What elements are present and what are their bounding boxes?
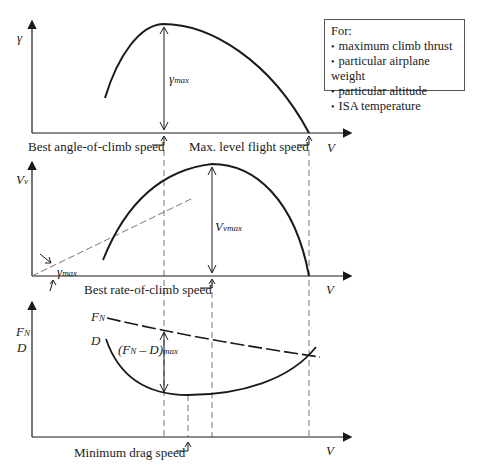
max-level-flight-speed-label: Max. level flight speed xyxy=(189,140,309,153)
conditions-legend: For: maximum climb thrust particular air… xyxy=(324,19,465,91)
gamma-axis-label: γ xyxy=(17,31,22,44)
middle-v-axis-label: V xyxy=(326,283,334,296)
gamma-curve xyxy=(105,24,309,133)
legend-item: particular airplane weight xyxy=(331,54,458,84)
top-panel xyxy=(32,22,350,145)
thrust-curve-label: FN xyxy=(91,310,105,323)
bottom-panel xyxy=(32,303,350,451)
gamma-max-label: γmax xyxy=(169,72,189,85)
best-angle-of-climb-speed-label: Best angle-of-climb speed xyxy=(28,140,164,153)
vv-axis-label: Vv xyxy=(16,173,28,186)
legend-item: maximum climb thrust xyxy=(331,39,458,54)
bottom-v-axis-label: V xyxy=(326,444,334,457)
middle-panel xyxy=(32,163,350,291)
d-axis-label: D xyxy=(17,341,26,354)
drag-curve-label: D xyxy=(91,334,100,347)
vv-max-label: Vvmax xyxy=(215,220,242,233)
minimum-drag-speed-label: Minimum drag speed xyxy=(74,446,185,459)
best-rate-of-climb-speed-label: Best rate-of-climb speed xyxy=(84,283,212,296)
top-v-axis-label: V xyxy=(327,141,335,154)
fn-axis-label: FN xyxy=(16,325,30,338)
legend-item: ISA temperature xyxy=(331,99,458,114)
tangent-gamma-max-label: γmax xyxy=(57,265,77,278)
excess-thrust-max-label: (FN – D)max xyxy=(118,343,178,356)
legend-title: For: xyxy=(331,24,458,39)
vv-curve xyxy=(103,164,309,276)
legend-item: particular altitude xyxy=(331,84,458,99)
